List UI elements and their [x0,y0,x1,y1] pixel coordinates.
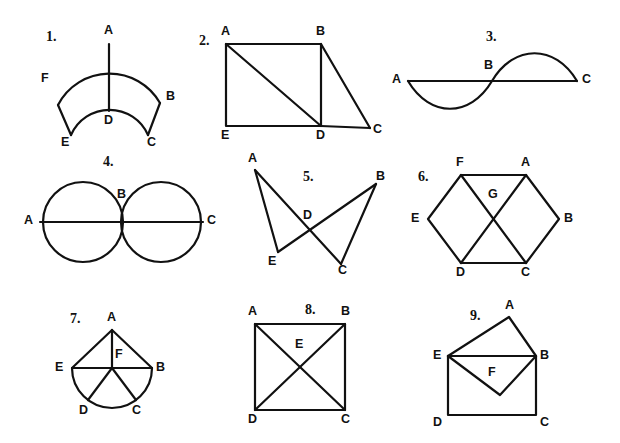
figure-1-drawing [35,18,195,148]
figure-9-label-c: C [540,416,549,429]
figure-6-label-a: A [521,156,530,169]
figure-1-label-e: E [61,136,69,149]
edge-d-c [321,126,370,128]
figure-2: 2. A B E D C [196,18,386,148]
figure-7: 7. A F E B D C [55,300,205,430]
figure-3-label-a: A [392,73,401,86]
figure-7-number: 7. [70,312,81,326]
figure-4-drawing [22,155,212,285]
figure-6-label-e: E [411,212,419,225]
figure-6: 6. F A G E B D C [418,150,588,285]
figure-3-label-c: C [582,73,591,86]
figure-8-number: 8. [305,303,316,317]
figure-6-drawing [418,150,588,285]
figure-6-label-f: F [456,156,464,169]
figure-7-label-c: C [132,404,141,417]
figure-4-number: 4. [103,155,114,169]
figure-5-label-b: B [376,170,385,183]
figure-2-label-e: E [221,129,229,142]
spoke-f-d [88,368,112,400]
figure-9-label-d: D [433,416,442,429]
figure-2-label-c: C [373,123,382,136]
figure-1-label-b: B [166,90,175,103]
diagonal-a-d [226,44,321,126]
figure-5: 5. A B D E C [228,152,398,277]
figure-1-label-a: A [104,24,113,37]
figure-9-label-a: A [505,299,514,312]
figure-9-number: 9. [470,309,481,323]
edge-a-e [72,330,112,368]
figure-4-label-a: A [24,214,33,227]
figure-8-label-b: B [341,305,350,318]
figure-8-label-a: A [248,305,257,318]
figure-4-label-b: B [117,188,126,201]
figure-4: 4. A B C [22,155,212,285]
figure-3-drawing [385,26,610,136]
figure-2-label-b: B [316,25,325,38]
figure-1-label-d: D [104,114,113,127]
figure-8-label-e: E [295,338,303,351]
figure-2-label-a: A [221,25,230,38]
figure-7-label-d: D [79,404,88,417]
figure-8: 8. A B E D C [222,298,392,428]
figure-6-label-d: D [456,266,465,279]
figure-6-label-c: C [521,266,530,279]
figure-9-drawing [408,294,588,434]
figure-3: 3. A B C [385,26,610,136]
figure-3-label-b: B [484,59,493,72]
figure-9-label-b: B [540,349,549,362]
figure-1-label-f: F [41,72,49,85]
figure-8-label-c: C [341,413,350,426]
figure-9-label-f: F [488,366,496,379]
figure-7-label-f: F [115,348,123,361]
flap-triangle-e-a-b [448,317,536,356]
figure-6-number: 6. [418,170,429,184]
figure-7-label-b: B [156,361,165,374]
figure-5-label-a: A [248,152,257,165]
figure-1-label-c: C [147,136,156,149]
figure-1: 1. A F B D E C [35,18,195,148]
figure-7-label-a: A [107,311,116,324]
side-f-e [58,105,71,135]
figure-7-label-e: E [55,361,63,374]
figure-2-label-d: D [316,129,325,142]
worksheet-page: 1. A F B D E C 2. A [0,0,620,443]
figure-5-label-d: D [303,209,312,222]
figure-5-label-c: C [338,264,347,277]
spoke-f-c [112,368,136,400]
figure-2-number: 2. [199,34,210,48]
semicircle-e-b [72,368,152,408]
figure-9-label-e: E [433,349,441,362]
figure-6-label-b: B [564,212,573,225]
figure-9: 9. A E B F D C [408,294,588,434]
side-b-c [148,103,160,135]
figure-4-label-c: C [207,214,216,227]
edge-b-c [321,44,370,128]
figure-8-label-d: D [248,413,257,426]
figure-5-number: 5. [303,170,314,184]
figure-1-number: 1. [46,30,57,44]
figure-6-label-g: G [488,188,498,201]
figure-3-number: 3. [486,30,497,44]
figure-5-label-e: E [268,255,276,268]
